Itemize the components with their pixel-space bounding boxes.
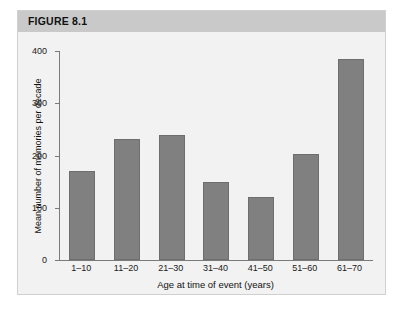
x-axis-tick-labels: 1–1011–2021–3031–4041–5051–6061–70 — [59, 263, 372, 273]
figure-number-label: FIGURE 8.1 — [28, 15, 87, 27]
bar-slot — [149, 51, 194, 260]
y-axis-tick-label: 100 — [32, 203, 47, 213]
bar-slot — [60, 51, 105, 260]
x-axis-tick-label: 41–50 — [238, 263, 283, 273]
bar-slot — [284, 51, 329, 260]
bar — [338, 59, 364, 260]
y-axis-tick-label: 200 — [32, 151, 47, 161]
bar — [248, 197, 274, 260]
y-axis-tick-label: 400 — [32, 46, 47, 56]
x-axis-tick-label: 31–40 — [193, 263, 238, 273]
x-axis-tick-label: 1–10 — [59, 263, 104, 273]
y-axis-tick-label: 300 — [32, 98, 47, 108]
bar — [114, 139, 140, 260]
figure-header-band: FIGURE 8.1 — [18, 11, 385, 32]
bar — [159, 135, 185, 260]
bar-slot — [105, 51, 150, 260]
x-axis-tick-label: 51–60 — [283, 263, 328, 273]
x-axis-tick-label: 11–20 — [104, 263, 149, 273]
x-axis-tick-label: 61–70 — [327, 263, 372, 273]
x-axis-title: Age at time of event (years) — [59, 279, 372, 290]
figure-container: FIGURE 8.1 Mean number of memories per d… — [17, 10, 386, 295]
bar — [203, 182, 229, 260]
bar-slot — [194, 51, 239, 260]
y-axis-tick-label: 0 — [42, 255, 47, 265]
plot-area: 0100200300400 — [59, 51, 373, 261]
bar-series — [60, 51, 373, 260]
x-axis-tick-label: 21–30 — [148, 263, 193, 273]
y-axis-tick: 0 — [55, 260, 60, 261]
bar-slot — [239, 51, 284, 260]
bar — [293, 154, 319, 260]
bar-slot — [328, 51, 373, 260]
bar — [69, 171, 95, 260]
